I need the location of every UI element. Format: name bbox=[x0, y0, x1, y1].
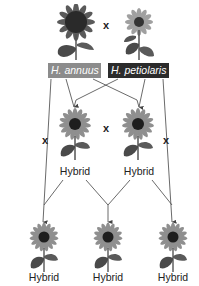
sunflower-f2-center-icon bbox=[90, 222, 126, 272]
sunflower-f2-right-icon bbox=[155, 222, 191, 272]
hybridization-diagram: x H. annuus H. petiolar bbox=[0, 0, 199, 286]
cross-symbol-f1: x bbox=[103, 122, 109, 134]
label-h-petiolaris: H. petiolaris bbox=[108, 63, 169, 78]
label-f2-hybrid-center: Hybrid bbox=[83, 271, 133, 283]
label-f1-hybrid-right: Hybrid bbox=[114, 165, 164, 177]
sunflower-annuus-icon bbox=[52, 4, 100, 60]
cross-symbol-backcross-left: x bbox=[42, 134, 48, 146]
sunflower-f1-left-icon bbox=[55, 108, 95, 160]
sunflower-f1-right-icon bbox=[118, 108, 158, 160]
sunflower-petiolaris-icon bbox=[118, 8, 160, 60]
label-f2-hybrid-right: Hybrid bbox=[148, 271, 198, 283]
cross-symbol-backcross-right: x bbox=[163, 134, 169, 146]
label-h-annuus: H. annuus bbox=[48, 63, 101, 78]
label-f2-hybrid-left: Hybrid bbox=[19, 271, 69, 283]
label-f1-hybrid-left: Hybrid bbox=[50, 165, 100, 177]
sunflower-f2-left-icon bbox=[26, 222, 62, 272]
cross-symbol-parents: x bbox=[103, 19, 109, 31]
